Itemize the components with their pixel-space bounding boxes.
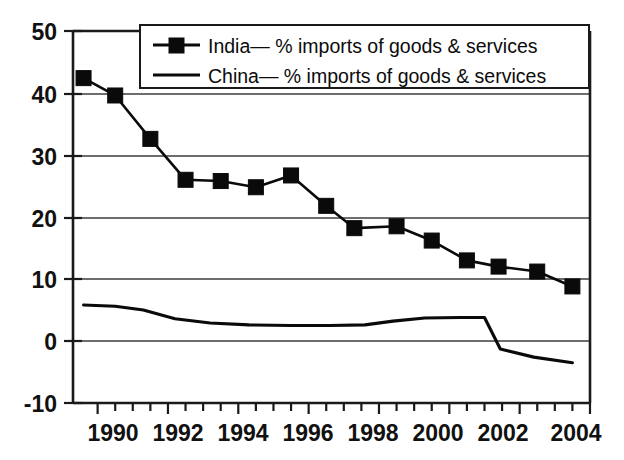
- series-line-india: [84, 78, 573, 286]
- y-tick-label-50: 50: [31, 19, 57, 45]
- x-tick-label-1996: 1996: [282, 420, 333, 446]
- data-point-india: [284, 168, 299, 183]
- y-tick-labels: 50 40 30 20 10 0 -10: [24, 19, 57, 417]
- data-point-india: [319, 198, 334, 213]
- data-point-india: [530, 264, 545, 279]
- legend-label-china: China— % imports of goods & services: [208, 65, 546, 87]
- legend-entry-china[interactable]: China— % imports of goods & services: [153, 65, 546, 87]
- data-point-india: [143, 131, 158, 146]
- x-tick-label-2000: 2000: [412, 420, 463, 446]
- data-point-india: [248, 180, 263, 195]
- y-tick-label-0: 0: [44, 329, 57, 355]
- series-markers-india: [76, 71, 580, 294]
- data-point-india: [424, 233, 439, 248]
- x-tick-label-2002: 2002: [477, 420, 528, 446]
- x-tick-marks: [98, 403, 590, 414]
- series-line-china: [84, 305, 573, 363]
- data-series-layer: [76, 71, 580, 363]
- data-point-india: [491, 259, 506, 274]
- legend: India— % imports of goods & services Chi…: [140, 25, 589, 88]
- y-tick-label-40: 40: [31, 82, 57, 108]
- data-point-india: [213, 174, 228, 189]
- x-tick-label-1998: 1998: [347, 420, 398, 446]
- y-tick-label--10: -10: [24, 391, 57, 417]
- x-tick-label-1994: 1994: [217, 420, 268, 446]
- line-chart: 50 40 30 20 10 0 -10 1990 1992 1994 1996…: [0, 0, 624, 460]
- data-point-india: [565, 279, 580, 294]
- data-point-india: [389, 219, 404, 234]
- data-point-india: [459, 253, 474, 268]
- chart-container: 50 40 30 20 10 0 -10 1990 1992 1994 1996…: [0, 0, 624, 460]
- data-point-india: [347, 221, 362, 236]
- legend-swatch-india-marker: [169, 38, 184, 53]
- x-tick-label-1990: 1990: [87, 420, 138, 446]
- x-tick-labels: 1990 1992 1994 1996 1998 2000 2002 2004: [87, 420, 601, 446]
- y-tick-label-10: 10: [31, 267, 57, 293]
- legend-entry-india[interactable]: India— % imports of goods & services: [153, 35, 538, 57]
- legend-label-india: India— % imports of goods & services: [208, 35, 538, 57]
- x-tick-label-1992: 1992: [152, 420, 203, 446]
- y-tick-label-20: 20: [31, 206, 57, 232]
- data-point-india: [76, 71, 91, 86]
- y-tick-label-30: 30: [31, 144, 57, 170]
- data-point-india: [178, 172, 193, 187]
- data-point-india: [108, 88, 123, 103]
- x-tick-label-2004: 2004: [550, 420, 601, 446]
